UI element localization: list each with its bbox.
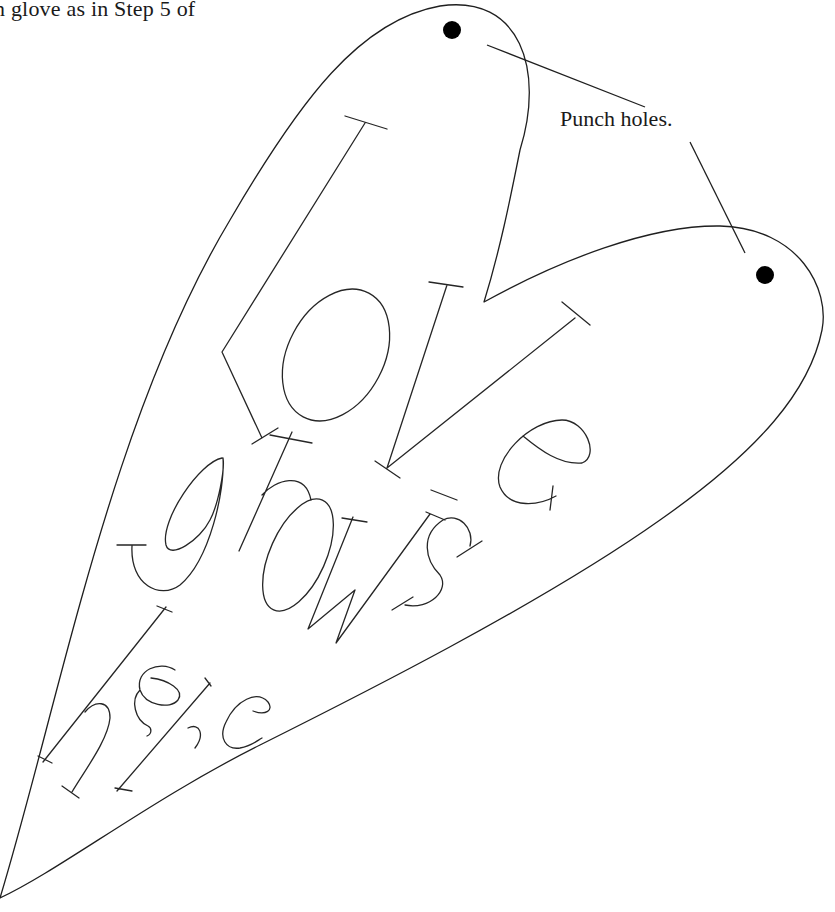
heart-pattern-illustration: [0, 0, 835, 912]
lettering-love: [222, 116, 590, 510]
heart-outline: [0, 5, 823, 898]
punch-hole-top: [443, 21, 461, 39]
leader-line-right: [690, 142, 745, 253]
leader-line-top: [487, 45, 645, 107]
punch-hole-right: [756, 266, 774, 284]
lettering-here: [38, 606, 270, 798]
